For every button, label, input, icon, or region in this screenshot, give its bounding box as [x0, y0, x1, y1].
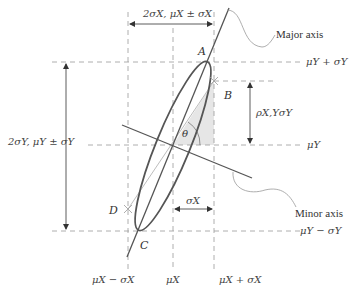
major-axis-callout: Major axis — [276, 29, 323, 40]
major-axis-callout-curve — [227, 10, 275, 47]
point-b-label: B — [224, 90, 232, 101]
mu-y-minus-label: μY − σY — [300, 226, 341, 236]
diagram-graphics — [0, 0, 351, 296]
ellipse-diagram: 2σX, μX ± σX 2σY, μY ± σY μY + σY μY μY … — [0, 0, 351, 296]
top-dimension-label: 2σX, μX ± σX — [143, 9, 212, 19]
rho-label: ρX,YσY — [256, 108, 292, 118]
point-a-label: A — [198, 46, 206, 57]
mu-y-label: μY — [307, 140, 320, 150]
point-c-label: C — [140, 240, 148, 251]
minor-axis-callout-curve — [233, 172, 296, 207]
mu-y-plus-label: μY + σY — [306, 57, 347, 67]
mu-x-minus-label: μX − σX — [92, 275, 134, 285]
sigma-x-label: σX — [186, 196, 200, 206]
point-d-label: D — [109, 205, 118, 216]
mu-x-label: μX — [166, 275, 180, 285]
left-dimension-label: 2σY, μY ± σY — [8, 137, 74, 147]
minor-axis-callout: Minor axis — [295, 208, 343, 219]
mu-x-plus-label: μX + σX — [219, 275, 261, 285]
theta-label: θ — [182, 129, 188, 139]
